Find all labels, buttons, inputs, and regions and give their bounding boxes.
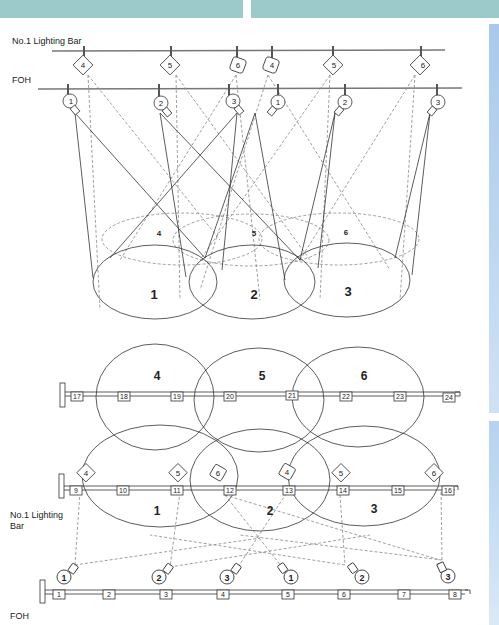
svg-text:6: 6 xyxy=(236,61,241,70)
svg-text:5: 5 xyxy=(332,61,337,70)
svg-text:9: 9 xyxy=(74,487,78,494)
svg-text:3: 3 xyxy=(164,591,168,598)
area-label-4: 4 xyxy=(157,229,162,238)
svg-text:5: 5 xyxy=(259,369,266,383)
svg-text:4: 4 xyxy=(154,369,161,383)
svg-text:1: 1 xyxy=(61,573,66,583)
svg-text:7: 7 xyxy=(402,591,406,598)
svg-text:23: 23 xyxy=(396,393,404,400)
area-label-2: 2 xyxy=(250,287,257,302)
svg-text:3: 3 xyxy=(232,97,237,106)
svg-text:11: 11 xyxy=(173,487,180,494)
lighting-diagram: 4 5 6 4 5 6 1 2 3 1 2 3 4 5 6 1 2 3 xyxy=(0,0,499,625)
svg-text:3: 3 xyxy=(224,573,229,583)
svg-text:1: 1 xyxy=(288,573,293,583)
svg-text:8: 8 xyxy=(453,591,457,598)
svg-text:6: 6 xyxy=(216,469,221,478)
svg-text:18: 18 xyxy=(120,393,128,400)
svg-text:6: 6 xyxy=(342,591,346,598)
svg-text:2: 2 xyxy=(343,98,348,107)
area-label-6: 6 xyxy=(344,228,349,237)
svg-text:14: 14 xyxy=(339,487,347,494)
svg-text:22: 22 xyxy=(342,393,350,400)
svg-text:3: 3 xyxy=(445,572,450,582)
svg-text:1: 1 xyxy=(57,591,61,598)
svg-text:19: 19 xyxy=(173,393,181,400)
svg-text:1: 1 xyxy=(154,504,161,518)
svg-text:5: 5 xyxy=(286,591,290,598)
svg-text:2: 2 xyxy=(156,573,161,583)
svg-text:5: 5 xyxy=(168,61,173,70)
svg-text:2: 2 xyxy=(267,504,274,518)
svg-text:2: 2 xyxy=(159,99,164,108)
svg-text:3: 3 xyxy=(436,98,441,107)
svg-text:13: 13 xyxy=(285,487,293,494)
svg-text:24: 24 xyxy=(445,394,453,401)
svg-text:6: 6 xyxy=(421,61,426,70)
svg-text:1: 1 xyxy=(69,97,74,106)
svg-text:10: 10 xyxy=(119,487,127,494)
svg-text:2: 2 xyxy=(107,591,111,598)
lb-lantern-label: 4 xyxy=(81,61,86,70)
svg-text:2: 2 xyxy=(359,573,364,583)
svg-text:5: 5 xyxy=(339,469,344,478)
svg-text:4: 4 xyxy=(270,61,275,70)
circuit-label: 17 xyxy=(73,393,81,400)
svg-text:4: 4 xyxy=(221,591,225,598)
area-label-3: 3 xyxy=(344,284,351,299)
svg-text:1: 1 xyxy=(276,98,281,107)
svg-text:4: 4 xyxy=(84,469,89,478)
svg-text:6: 6 xyxy=(432,469,437,478)
svg-text:21: 21 xyxy=(288,392,296,399)
svg-text:12: 12 xyxy=(226,487,234,494)
svg-text:20: 20 xyxy=(226,393,234,400)
svg-text:16: 16 xyxy=(444,487,452,494)
svg-text:3: 3 xyxy=(371,502,378,516)
svg-text:4: 4 xyxy=(285,468,290,477)
svg-text:6: 6 xyxy=(361,369,368,383)
area-label-1: 1 xyxy=(150,287,157,302)
svg-text:15: 15 xyxy=(394,487,402,494)
svg-text:5: 5 xyxy=(176,469,181,478)
area-label-5: 5 xyxy=(252,229,257,238)
